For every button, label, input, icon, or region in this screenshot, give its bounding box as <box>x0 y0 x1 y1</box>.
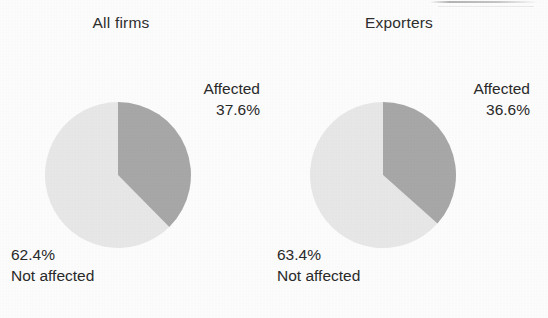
callout-not-affected-exporters: 63.4% Not affected <box>277 244 360 286</box>
pie-chart-exporters <box>310 102 456 248</box>
chart-panel-all-firms: All firms Affected 37.6% 62.4% Not affec… <box>0 0 274 318</box>
callout-not-affected-label-exporters: Not affected <box>277 265 360 286</box>
callout-not-affected-value-all-firms: 62.4% <box>11 244 94 265</box>
pie-chart-all-firms <box>45 102 191 248</box>
chart-title-exporters: Exporters <box>262 14 536 32</box>
callout-affected-label-all-firms: Affected <box>203 78 260 99</box>
chart-title-all-firms: All firms <box>0 14 258 32</box>
callout-affected-value-exporters: 36.6% <box>473 99 530 120</box>
callout-affected-value-all-firms: 37.6% <box>203 99 260 120</box>
callout-not-affected-label-all-firms: Not affected <box>11 265 94 286</box>
pie-chart-figure: All firms Affected 37.6% 62.4% Not affec… <box>0 0 548 318</box>
callout-affected-all-firms: Affected 37.6% <box>203 78 260 120</box>
callout-not-affected-value-exporters: 63.4% <box>277 244 360 265</box>
chart-panel-exporters: Exporters Affected 36.6% 63.4% Not affec… <box>274 0 548 318</box>
callout-affected-label-exporters: Affected <box>473 78 530 99</box>
callout-not-affected-all-firms: 62.4% Not affected <box>11 244 94 286</box>
callout-affected-exporters: Affected 36.6% <box>473 78 530 120</box>
pie-svg-exporters <box>310 102 456 248</box>
pie-svg-all-firms <box>45 102 191 248</box>
